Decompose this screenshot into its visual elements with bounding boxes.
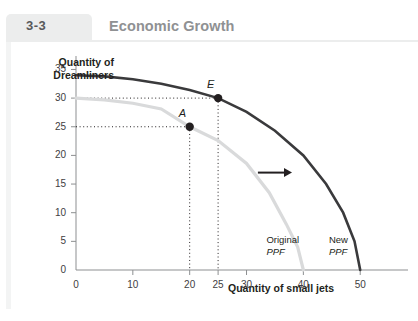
x-tick-10: 10 [121, 279, 145, 290]
figure-number: 3-3 [26, 18, 46, 33]
y-tick-25: 25 [42, 121, 66, 132]
page-title: Economic Growth [109, 18, 235, 34]
y-tick-30: 30 [42, 92, 66, 103]
y-tick-20: 20 [42, 149, 66, 160]
point-label-a: A [179, 107, 186, 119]
x-tick-50: 50 [348, 279, 372, 290]
figure-container: FIGURE 3-3 Economic Growth Quantity of D… [0, 0, 418, 321]
data-point-markers [185, 94, 222, 131]
y-tick-35: 35 [42, 63, 66, 74]
curve-label-new-ppf: NewPPF [329, 234, 348, 258]
curve-label-line1: New [329, 234, 348, 245]
chart-plot-area: Quantity of Dreamliners Quantity of smal… [0, 44, 418, 306]
y-tick-15: 15 [42, 178, 66, 189]
x-tick-25: 25 [206, 279, 230, 290]
y-tick-10: 10 [42, 207, 66, 218]
curve-label-line1: Original [266, 234, 299, 245]
point-label-e: E [207, 78, 214, 90]
growth-arrow-icon [258, 168, 292, 177]
guide-lines [76, 98, 218, 270]
chart-axes [71, 56, 408, 275]
curve-label-line2: PPF [329, 246, 347, 257]
x-tick-20: 20 [178, 279, 202, 290]
x-tick-40: 40 [291, 279, 315, 290]
header-divider [6, 40, 418, 42]
x-tick-30: 30 [235, 279, 259, 290]
curve-label-line2: PPF [266, 246, 284, 257]
y-tick-0: 0 [42, 264, 66, 275]
figure-number-tab [6, 14, 92, 40]
new-ppf-curve [76, 75, 360, 270]
x-tick-0: 0 [64, 279, 88, 290]
y-tick-5: 5 [42, 235, 66, 246]
curve-label-original-ppf: OriginalPPF [266, 234, 299, 258]
